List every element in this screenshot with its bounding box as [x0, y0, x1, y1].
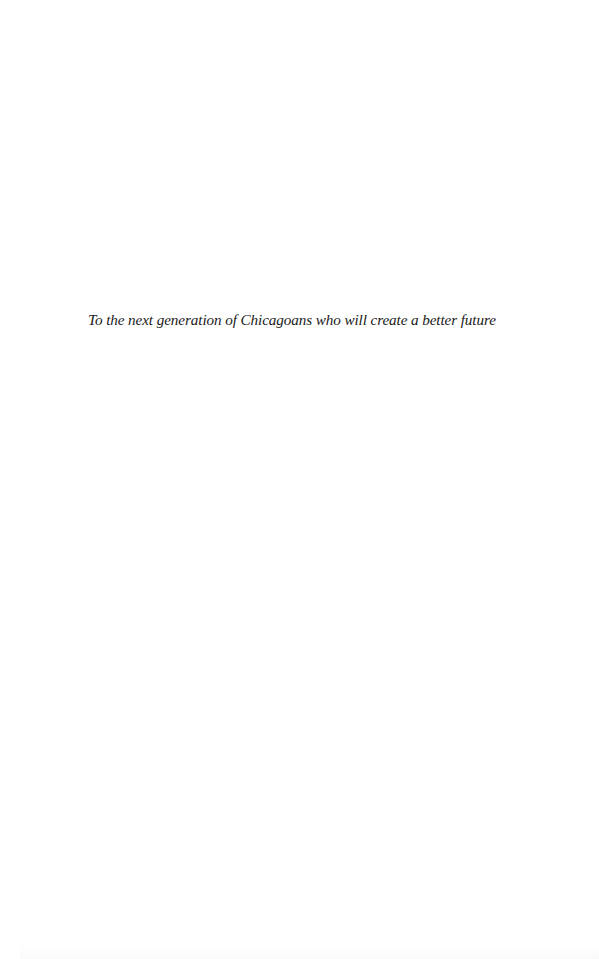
book-page: To the next generation of Chicagoans who… — [0, 0, 599, 959]
page-edge-bleed-through — [20, 945, 599, 959]
dedication-text: To the next generation of Chicagoans who… — [88, 311, 496, 329]
